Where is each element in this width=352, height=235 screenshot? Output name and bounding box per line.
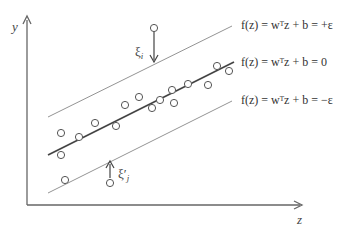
lower-margin-line — [48, 101, 232, 193]
data-point — [61, 176, 68, 183]
data-point — [57, 151, 64, 158]
slack-upper: ξi — [135, 32, 158, 62]
data-point — [150, 24, 157, 31]
data-point — [168, 86, 175, 93]
data-point — [75, 133, 82, 140]
axes: y z — [10, 16, 302, 227]
data-point — [225, 67, 232, 74]
upper-margin-line — [48, 26, 232, 117]
regression-line — [48, 62, 234, 155]
xi-j-label: ξ′j — [118, 166, 130, 183]
svr-diagram: y z f(z) = wᵀz + b = +ε f(z) = wᵀz + b =… — [0, 0, 352, 235]
data-point — [170, 99, 177, 106]
data-point — [204, 81, 211, 88]
equations: f(z) = wᵀz + b = +ε f(z) = wᵀz + b = 0 f… — [241, 18, 333, 107]
y-axis-label: y — [10, 19, 18, 34]
x-axis-label: z — [296, 212, 302, 227]
equation-upper: f(z) = wᵀz + b = +ε — [241, 18, 333, 32]
data-point — [184, 80, 191, 87]
data-point — [156, 96, 163, 103]
data-point — [121, 101, 128, 108]
data-point — [106, 179, 113, 186]
data-point — [91, 119, 98, 126]
data-point — [112, 122, 119, 129]
data-point — [57, 129, 64, 136]
equation-lower: f(z) = wᵀz + b = −ε — [241, 93, 333, 107]
data-point — [135, 93, 142, 100]
equation-regression: f(z) = wᵀz + b = 0 — [241, 55, 327, 69]
data-point — [213, 62, 220, 69]
data-point — [148, 104, 155, 111]
xi-i-label: ξi — [135, 44, 144, 61]
